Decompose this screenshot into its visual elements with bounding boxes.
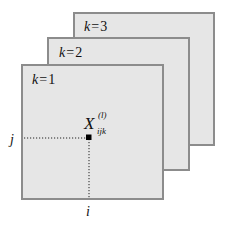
slice-panel-k1: k=1 X (l) ijk xyxy=(22,65,163,199)
slice-label-k2: k=2 xyxy=(59,45,82,60)
element-label-base: X xyxy=(83,114,95,133)
element-marker xyxy=(86,135,92,141)
slice-label-k3: k=3 xyxy=(84,19,107,34)
element-label-subscript: ijk xyxy=(97,126,107,136)
tensor-slices-diagram: k=3 k=2 k=1 X (l) ijk j i xyxy=(0,0,226,225)
element-label-superscript: (l) xyxy=(98,110,107,120)
column-index-label: i xyxy=(86,204,90,219)
slice-label-k1: k=1 xyxy=(32,72,55,87)
row-index-label: j xyxy=(8,132,14,147)
